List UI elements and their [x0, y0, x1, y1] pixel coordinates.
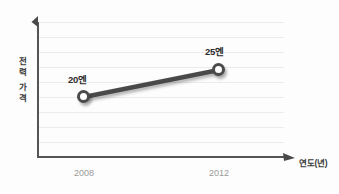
gridline [38, 112, 284, 113]
y-axis-title-char-2: 력 [16, 67, 30, 78]
gridline [38, 37, 284, 38]
gridline [38, 22, 284, 23]
y-axis-title: 전 력 가 격 [16, 56, 30, 104]
data-point-marker-2012[interactable] [212, 63, 225, 76]
gridline [38, 67, 284, 68]
x-axis-line [37, 156, 287, 158]
plot-area [38, 22, 284, 157]
x-axis-title: 연도(년) [299, 156, 327, 168]
gridline [38, 127, 284, 128]
y-axis-line [37, 22, 39, 158]
arrow-up-icon [30, 14, 44, 28]
arrow-right-icon [281, 150, 297, 166]
y-axis-title-char-3: 가 [16, 82, 30, 93]
gridline [38, 52, 284, 53]
y-axis-title-char-4: 격 [16, 93, 30, 104]
data-label-2012: 25엔 [205, 44, 224, 58]
x-axis-tick-2012: 2012 [204, 168, 234, 178]
x-axis-tick-2008: 2008 [69, 168, 99, 178]
gridline [38, 97, 284, 98]
line-chart-figure: 20엔 25엔 2008 2012 전 력 가 격 연도(년) [0, 0, 339, 194]
data-point-marker-2008[interactable] [77, 90, 90, 103]
gridline [38, 142, 284, 143]
y-axis-title-char-1: 전 [16, 56, 30, 67]
data-label-2008: 20엔 [68, 72, 87, 86]
